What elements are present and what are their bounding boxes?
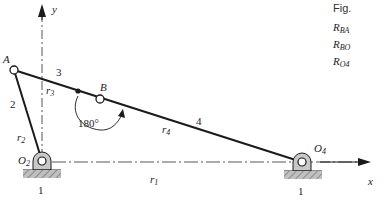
r-o4-label: RO4: [332, 55, 350, 69]
y-axis-arrow-icon: [38, 4, 46, 17]
r2-label: r2: [17, 131, 25, 145]
ground-hatch-icon: [284, 171, 322, 179]
link-3-label: 3: [56, 66, 62, 78]
fig-label: Fig.: [333, 2, 351, 14]
ground-hatch-icon: [23, 170, 61, 178]
link-2-crank: [14, 70, 42, 161]
link-4-label: 4: [196, 115, 202, 127]
ground-link-1-right-label: 1: [298, 185, 304, 197]
o2-label: O2: [18, 154, 30, 168]
four-bar-linkage-diagram: y x 180° A B 3 2 4 r3 r2 r4 r1 O2 1: [0, 0, 392, 201]
pin-b: [96, 95, 104, 103]
ground-pivot-o2: O2 1: [18, 152, 61, 196]
point-b-label: B: [100, 81, 107, 93]
angle-label: 180°: [78, 117, 99, 129]
r-bo-label: RBO: [332, 38, 351, 52]
r1-label: r1: [150, 173, 158, 187]
point-a-label: A: [2, 53, 10, 65]
ground-pivot-o4: O4 1: [284, 142, 326, 197]
pin-a: [10, 66, 18, 74]
o4-label: O4: [314, 142, 326, 156]
side-caption: Fig. RBA RBO RO4: [332, 2, 351, 69]
ground-link-1-label: 1: [38, 184, 44, 196]
x-axis-arrow-icon: [358, 158, 371, 166]
r-ba-label: RBA: [332, 21, 350, 35]
x-axis: x: [52, 158, 373, 187]
x-axis-label: x: [367, 175, 373, 187]
r3-endpoint-dot: [75, 88, 80, 93]
y-axis-label: y: [51, 3, 57, 15]
link-2-label: 2: [10, 98, 16, 110]
r3-label: r3: [46, 84, 54, 98]
angle-arrow-icon: [118, 109, 125, 118]
r4-label: r4: [162, 123, 170, 137]
link-3-4-coupler-rocker: [14, 70, 302, 162]
